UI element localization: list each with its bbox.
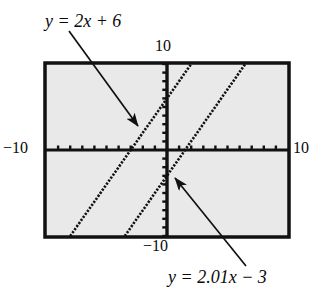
y-max-label: 10	[155, 38, 171, 54]
bottom-equation-text: y = 2.01x − 3	[168, 267, 267, 287]
y-min-label: −10	[143, 238, 168, 254]
top-equation-label: y = 2x + 6	[45, 12, 121, 30]
x-max-label: 10	[293, 140, 309, 156]
bottom-equation-label: y = 2.01x − 3	[168, 268, 267, 286]
figure-root: y = 2x + 6 y = 2.01x − 3 10 −10 10 −10	[0, 0, 320, 294]
x-min-label: −10	[3, 140, 28, 156]
top-equation-text: y = 2x + 6	[45, 11, 121, 31]
